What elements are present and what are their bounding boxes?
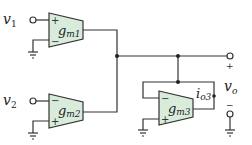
circuit-diagram: v1 v2 + − gm1 − + gm2 − + gm3 io3 + vo −	[0, 0, 252, 145]
output-vo-label: vo	[224, 78, 238, 96]
input-v1-label: v1	[3, 11, 17, 29]
io3-label: io3	[196, 86, 212, 102]
output-plus-sign: +	[226, 61, 234, 71]
input-v2-label: v2	[3, 92, 17, 110]
output-minus-sign: −	[226, 100, 234, 110]
